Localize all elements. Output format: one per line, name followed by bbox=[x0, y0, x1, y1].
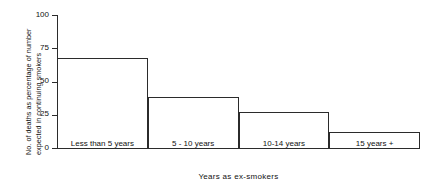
y-axis-tick-label: 0 bbox=[45, 143, 49, 152]
y-axis-tick-label: 75 bbox=[40, 43, 49, 52]
x-axis-category-label: 10-14 years bbox=[239, 139, 330, 148]
x-axis-title: Years as ex-smokers bbox=[57, 172, 420, 181]
y-axis-tick: 75 bbox=[52, 48, 57, 49]
y-axis-title: No. of deaths as percentage of number ex… bbox=[0, 0, 30, 160]
y-axis-tick: 0 bbox=[52, 148, 57, 149]
x-axis-category-label: Less than 5 years bbox=[57, 139, 148, 148]
plot-area: 0255075100 bbox=[57, 15, 420, 148]
x-axis-line bbox=[57, 148, 420, 149]
x-axis-category-label: 5 - 10 years bbox=[148, 139, 239, 148]
y-axis-tick-label: 50 bbox=[40, 76, 49, 85]
y-axis-title-line-1: No. of deaths as percentage of number bbox=[24, 28, 33, 155]
chart-figure: No. of deaths as percentage of number ex… bbox=[0, 0, 429, 195]
y-axis-tick-label: 25 bbox=[40, 109, 49, 118]
bar bbox=[57, 58, 148, 148]
x-axis-category-label: 15 years + bbox=[329, 139, 420, 148]
y-axis-tick: 100 bbox=[52, 15, 57, 16]
y-axis-tick-label: 100 bbox=[36, 10, 49, 19]
